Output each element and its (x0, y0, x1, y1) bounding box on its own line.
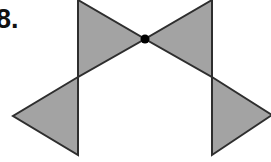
top-left-triangle (78, 0, 145, 77)
bottom-left-triangle (13, 77, 78, 155)
bottom-right-triangle (212, 77, 271, 155)
figure-canvas: 8. (0, 0, 271, 162)
top-right-triangle (145, 0, 212, 77)
center-point-dot (141, 35, 150, 44)
bowtie-triangles-figure (0, 0, 271, 162)
